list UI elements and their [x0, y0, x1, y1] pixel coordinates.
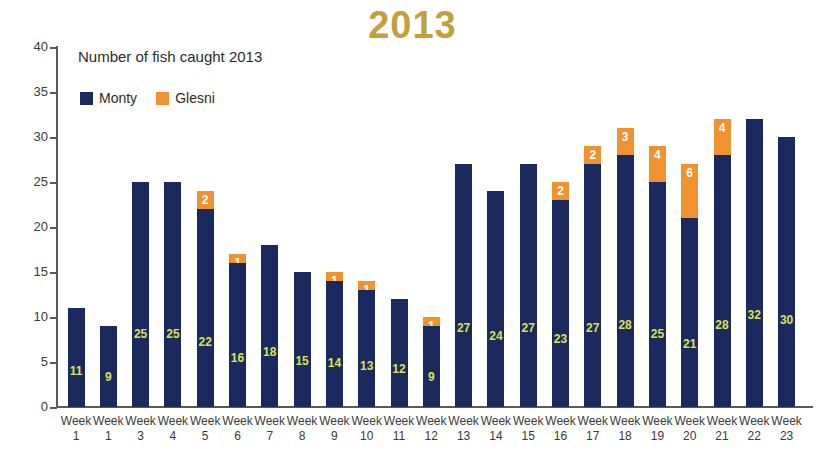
bar-value-label-monty: 16 [229, 352, 246, 364]
y-tick-mark [50, 407, 57, 409]
x-label-word: Week [766, 414, 808, 429]
bar-group[interactable]: 25 [132, 182, 149, 407]
bar-segment-monty[interactable]: 14 [326, 281, 343, 407]
bar-group[interactable]: 114 [326, 272, 343, 407]
bar-segment-glesni[interactable]: 2 [552, 182, 569, 200]
x-axis-label: Week23 [766, 414, 808, 444]
bar-segment-glesni[interactable]: 3 [617, 128, 634, 155]
bar-segment-monty[interactable]: 11 [68, 308, 85, 407]
bar-segment-monty[interactable]: 30 [778, 137, 795, 407]
bar-group[interactable]: 116 [229, 254, 246, 407]
bar-value-label-monty: 13 [358, 360, 375, 372]
bar-segment-monty[interactable]: 12 [391, 299, 408, 407]
bar-segment-monty[interactable]: 32 [746, 119, 763, 407]
bar-segment-monty[interactable]: 28 [714, 155, 731, 407]
bar-value-label-monty: 27 [520, 322, 537, 334]
bar-group[interactable]: 19 [423, 317, 440, 407]
bar-group[interactable]: 27 [455, 164, 472, 407]
bar-segment-glesni[interactable]: 1 [229, 254, 246, 263]
y-tick-label: 40 [18, 39, 48, 54]
bar-value-label-glesni: 6 [686, 164, 693, 179]
bar-segment-monty[interactable]: 16 [229, 263, 246, 407]
bar-group[interactable]: 18 [261, 245, 278, 407]
bar-segment-monty[interactable]: 27 [520, 164, 537, 407]
bar-segment-monty[interactable]: 27 [455, 164, 472, 407]
bar-value-label-monty: 21 [681, 338, 698, 350]
bar-value-label-glesni: 3 [622, 128, 629, 143]
bar-segment-monty[interactable]: 25 [132, 182, 149, 407]
bar-value-label-monty: 14 [326, 357, 343, 369]
bar-segment-monty[interactable]: 9 [423, 326, 440, 407]
bar-group[interactable]: 223 [552, 182, 569, 407]
chart-title: 2013 [0, 4, 825, 47]
bar-group[interactable]: 27 [520, 164, 537, 407]
y-tick-label: 30 [18, 129, 48, 144]
bar-group[interactable]: 227 [584, 146, 601, 407]
bar-group[interactable]: 428 [714, 119, 731, 407]
bar-group[interactable]: 113 [358, 281, 375, 407]
bar-segment-glesni[interactable]: 4 [649, 146, 666, 182]
y-tick-label: 35 [18, 84, 48, 99]
y-tick-mark [50, 137, 57, 139]
bar-segment-monty[interactable]: 18 [261, 245, 278, 407]
bar-segment-glesni[interactable]: 2 [584, 146, 601, 164]
bar-value-label-monty: 27 [455, 322, 472, 334]
y-tick-label: 25 [18, 174, 48, 189]
bar-group[interactable]: 328 [617, 128, 634, 407]
bar-segment-monty[interactable]: 25 [649, 182, 666, 407]
y-tick-mark [50, 47, 57, 49]
y-tick-label: 5 [18, 354, 48, 369]
bar-group[interactable]: 15 [294, 272, 311, 407]
bar-group[interactable]: 24 [487, 191, 504, 407]
y-tick-mark [50, 317, 57, 319]
bar-segment-monty[interactable]: 25 [164, 182, 181, 407]
bar-segment-glesni[interactable]: 1 [423, 317, 440, 326]
bar-segment-glesni[interactable]: 1 [358, 281, 375, 290]
bar-segment-monty[interactable]: 27 [584, 164, 601, 407]
bar-value-label-monty: 12 [391, 363, 408, 375]
bar-group[interactable]: 621 [681, 164, 698, 407]
bar-value-label-monty: 25 [132, 328, 149, 340]
bar-value-label-monty: 9 [100, 371, 117, 383]
bar-segment-monty[interactable]: 13 [358, 290, 375, 407]
y-tick-label: 10 [18, 309, 48, 324]
bar-value-label-monty: 30 [778, 314, 795, 326]
bar-value-label-monty: 28 [714, 319, 731, 331]
bar-group[interactable]: 9 [100, 326, 117, 407]
bar-value-label-glesni: 2 [557, 182, 564, 197]
bar-value-label-glesni: 4 [719, 119, 726, 134]
bar-value-label-monty: 25 [164, 328, 181, 340]
chart-container: 2013 Number of fish caught 2013 MontyGle… [0, 0, 825, 475]
bar-value-label-monty: 9 [423, 371, 440, 383]
y-tick-label: 15 [18, 264, 48, 279]
bar-segment-glesni[interactable]: 2 [197, 191, 214, 209]
bar-segment-monty[interactable]: 28 [617, 155, 634, 407]
bar-segment-glesni[interactable]: 4 [714, 119, 731, 155]
bar-group[interactable]: 12 [391, 299, 408, 407]
bar-segment-glesni[interactable]: 1 [326, 272, 343, 281]
bar-value-label-monty: 32 [746, 309, 763, 321]
bar-segment-monty[interactable]: 9 [100, 326, 117, 407]
y-tick-mark [50, 182, 57, 184]
bar-segment-monty[interactable]: 22 [197, 209, 214, 407]
bar-value-label-monty: 23 [552, 333, 569, 345]
bar-segment-glesni[interactable]: 6 [681, 164, 698, 218]
bar-segment-monty[interactable]: 24 [487, 191, 504, 407]
bar-value-label-monty: 28 [617, 319, 634, 331]
bar-group[interactable]: 25 [164, 182, 181, 407]
bar-value-label-monty: 25 [649, 328, 666, 340]
bar-group[interactable]: 425 [649, 146, 666, 407]
bar-group[interactable]: 32 [746, 119, 763, 407]
bar-segment-monty[interactable]: 15 [294, 272, 311, 407]
y-tick-mark [50, 227, 57, 229]
bar-group[interactable]: 222 [197, 191, 214, 407]
bar-value-label-glesni: 2 [202, 191, 209, 206]
y-tick-label: 20 [18, 219, 48, 234]
bar-group[interactable]: 30 [778, 137, 795, 407]
bar-segment-monty[interactable]: 21 [681, 218, 698, 407]
bar-group[interactable]: 11 [68, 308, 85, 407]
bar-value-label-monty: 24 [487, 330, 504, 342]
bar-segment-monty[interactable]: 23 [552, 200, 569, 407]
bar-value-label-glesni: 2 [589, 146, 596, 161]
bar-value-label-monty: 11 [68, 365, 85, 377]
